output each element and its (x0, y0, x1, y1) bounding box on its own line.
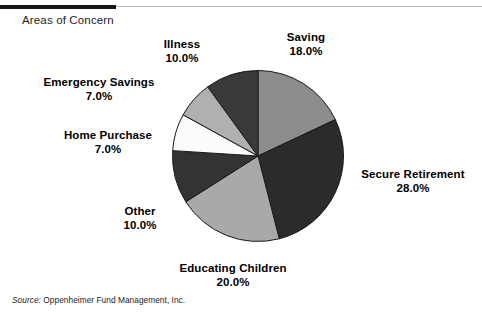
header-rule-thin (116, 6, 482, 7)
chart-page: Areas of Concern Saving 18.0% Illness 10… (0, 0, 482, 326)
source-note: Source: Oppenheimer Fund Management, Inc… (12, 295, 185, 305)
pie-label-educating-children-value: 20.0% (159, 276, 307, 290)
pie-label-other: Other 10.0% (99, 205, 181, 232)
pie-label-secure-retirement: Secure Retirement 28.0% (349, 168, 477, 195)
pie-label-other-value: 10.0% (99, 219, 181, 233)
pie-label-home-purchase-name: Home Purchase (64, 129, 152, 141)
pie-chart (171, 69, 345, 243)
pie-label-illness-value: 10.0% (140, 52, 224, 66)
pie-label-other-name: Other (124, 205, 155, 217)
pie-slice-group (173, 71, 344, 242)
pie-label-emergency-savings-value: 7.0% (29, 90, 169, 104)
pie-label-emergency-savings-name: Emergency Savings (43, 76, 154, 88)
pie-label-saving-value: 18.0% (263, 45, 349, 59)
pie-label-educating-children: Educating Children 20.0% (159, 262, 307, 289)
pie-label-illness-name: Illness (164, 38, 201, 50)
source-prefix: Source: (12, 295, 41, 305)
pie-label-saving: Saving 18.0% (263, 31, 349, 58)
source-text: Oppenheimer Fund Management, Inc. (43, 295, 185, 305)
pie-label-secure-retirement-name: Secure Retirement (361, 168, 464, 180)
pie-label-illness: Illness 10.0% (140, 38, 224, 65)
pie-label-home-purchase-value: 7.0% (47, 143, 169, 157)
pie-label-saving-name: Saving (287, 31, 325, 43)
pie-chart-svg (171, 69, 345, 243)
chart-caption: Areas of Concern (22, 14, 114, 26)
pie-label-home-purchase: Home Purchase 7.0% (47, 129, 169, 156)
pie-label-emergency-savings: Emergency Savings 7.0% (29, 76, 169, 103)
pie-label-secure-retirement-value: 28.0% (349, 182, 477, 196)
header-rule-thick (0, 5, 116, 9)
pie-label-educating-children-name: Educating Children (179, 262, 286, 274)
